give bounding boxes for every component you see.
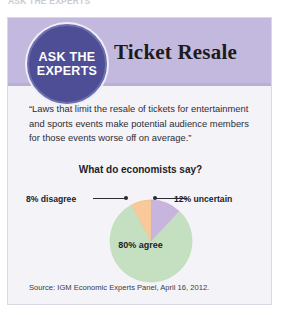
page-title: Ticket Resale bbox=[114, 40, 237, 65]
callout-disagree: 8% disagree bbox=[26, 194, 76, 204]
source-note: Source: IGM Economic Experts Panel, Apri… bbox=[29, 283, 209, 292]
badge-line-2: EXPERTS bbox=[37, 64, 97, 78]
badge-line-1: ASK THE bbox=[39, 50, 96, 64]
ask-the-experts-panel: ASK THE EXPERTS Ticket Resale “Laws that… bbox=[7, 17, 272, 305]
callout-leader-left bbox=[93, 198, 125, 199]
pie-label-agree: 80% agree bbox=[8, 240, 272, 250]
pie-chart: 8% disagree 12% uncertain 80% agree bbox=[8, 178, 272, 278]
callout-dot-right bbox=[153, 196, 157, 200]
running-head: ASK THE EXPERTS bbox=[8, 0, 208, 6]
quote-text: “Laws that limit the resale of tickets f… bbox=[29, 102, 257, 146]
callout-dot-left bbox=[124, 196, 128, 200]
callout-uncertain: 12% uncertain bbox=[174, 194, 232, 204]
ask-the-experts-badge: ASK THE EXPERTS bbox=[27, 24, 107, 104]
chart-title: What do economists say? bbox=[8, 164, 272, 175]
